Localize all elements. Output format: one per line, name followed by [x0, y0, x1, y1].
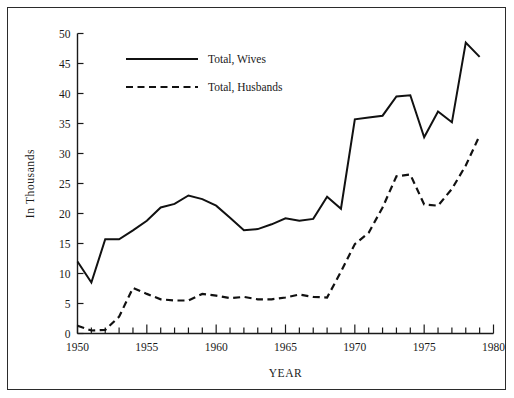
y-tick-label: 5 [65, 298, 71, 310]
y-tick-label: 0 [65, 328, 71, 340]
y-tick-label: 15 [59, 238, 71, 250]
x-tick-label: 1960 [205, 341, 228, 353]
y-tick-label: 20 [59, 208, 71, 220]
line-chart-canvas: 05101520253035404550 1950195519601965197… [0, 0, 514, 398]
legend-label: Total, Wives [208, 53, 266, 66]
x-tick-label: 1970 [343, 341, 366, 353]
x-tick-label: 1980 [482, 341, 505, 353]
legend-label: Total, Husbands [208, 81, 283, 94]
x-axis-title: YEAR [269, 367, 303, 379]
x-tick-label: 1955 [135, 341, 158, 353]
y-tick-label: 10 [59, 268, 71, 280]
series-line-total-wives [78, 43, 480, 283]
y-tick-label: 25 [59, 178, 71, 190]
y-axis-title: In Thousands [24, 149, 36, 218]
y-tick-label: 50 [59, 28, 71, 40]
chart-legend: Total, WivesTotal, Husbands [126, 53, 283, 94]
y-tick-label: 30 [59, 148, 71, 160]
y-axis-ticks: 05101520253035404550 [59, 28, 84, 340]
x-tick-label: 1950 [66, 341, 89, 353]
y-tick-label: 35 [59, 118, 71, 130]
x-tick-label: 1965 [274, 341, 297, 353]
y-tick-label: 40 [59, 88, 71, 100]
x-tick-label: 1975 [413, 341, 436, 353]
series-line-total-husbands [78, 136, 480, 331]
chart-figure: 05101520253035404550 1950195519601965197… [0, 0, 514, 398]
y-tick-label: 45 [59, 58, 71, 70]
x-axis-ticks: 1950195519601965197019751980 [66, 325, 505, 353]
